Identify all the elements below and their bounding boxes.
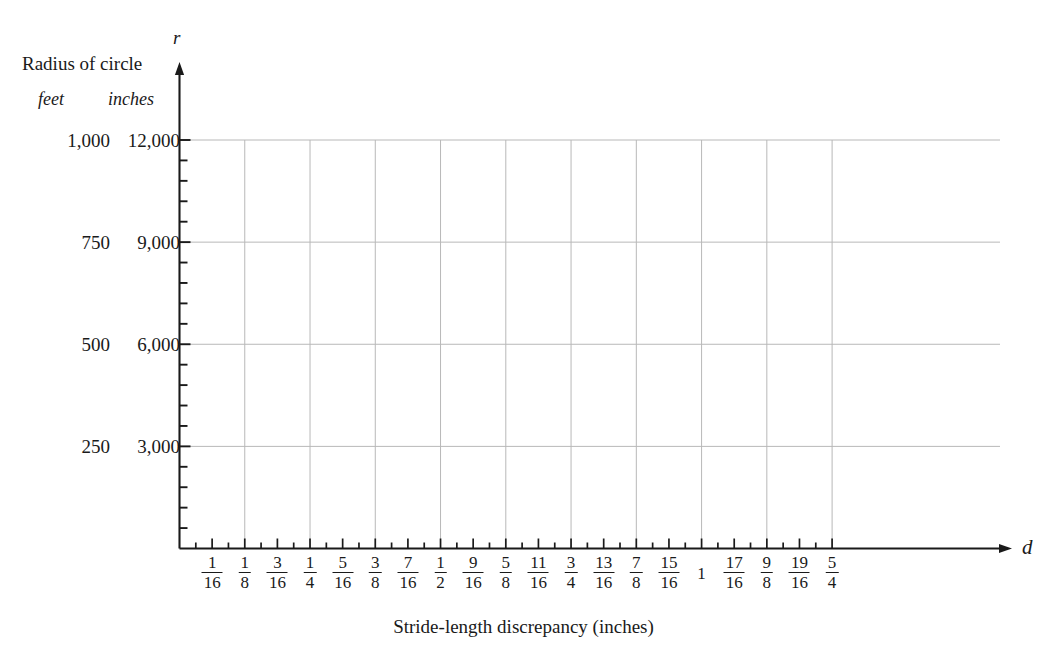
x-axis-tick-label: 916: [463, 554, 484, 591]
fraction-numerator: 13: [593, 554, 614, 573]
x-axis-variable-symbol: d: [1022, 537, 1033, 558]
fraction-numerator: 1: [202, 554, 223, 573]
x-axis-tick-label: 58: [500, 554, 513, 591]
x-axis-tick-label: 54: [826, 554, 839, 591]
y-axis-tick-label-inches: 12,000: [128, 131, 180, 150]
y-axis-unit-feet-header: feet: [38, 90, 64, 108]
x-axis-tick-fraction: 38: [369, 554, 382, 591]
x-axis-tick-fraction: 1516: [658, 554, 679, 591]
y-axis-tick-label-feet: 500: [82, 335, 111, 354]
x-axis-tick-label: 14: [304, 554, 317, 591]
fraction-denominator: 16: [332, 573, 353, 591]
x-axis-tick-fraction: 34: [565, 554, 578, 591]
fraction-denominator: 4: [565, 573, 578, 591]
fraction-denominator: 16: [789, 573, 810, 591]
x-axis-tick-fraction: 18: [239, 554, 252, 591]
fraction-denominator: 4: [304, 573, 317, 591]
x-axis-tick-label: 12: [434, 554, 447, 591]
x-axis-tick-fraction: 54: [826, 554, 839, 591]
chart-page: Radius of circle feet inches r d Stride-…: [0, 0, 1047, 657]
y-axis-variable-symbol: r: [173, 28, 180, 47]
x-axis-arrowhead: [999, 544, 1012, 553]
x-axis-tick-label: 116: [202, 554, 223, 591]
y-axis-tick-label-inches: 6,000: [137, 335, 180, 354]
x-axis-tick-label: 98: [761, 554, 774, 591]
y-axis-unit-inches-header: inches: [108, 90, 154, 108]
fraction-numerator: 3: [267, 554, 288, 573]
fraction-numerator: 3: [565, 554, 578, 573]
fraction-numerator: 15: [658, 554, 679, 573]
y-axis-tick-label-feet: 1,000: [67, 131, 110, 150]
fraction-numerator: 5: [500, 554, 513, 573]
y-axis-tick-label-feet: 250: [82, 437, 111, 456]
fraction-denominator: 16: [528, 573, 549, 591]
x-axis-tick-label: 78: [630, 554, 643, 591]
x-axis-tick-label: 38: [369, 554, 382, 591]
fraction-numerator: 1: [434, 554, 447, 573]
x-axis-title: Stride-length discrepancy (inches): [0, 617, 1047, 636]
y-axis-arrowhead: [175, 62, 184, 75]
x-axis-tick-fraction: 1916: [789, 554, 810, 591]
x-axis-tick-whole-number: 1: [697, 554, 706, 582]
x-axis-tick-label: 1516: [658, 554, 679, 591]
x-axis-tick-fraction: 116: [202, 554, 223, 591]
fraction-denominator: 8: [630, 573, 643, 591]
fraction-numerator: 1: [239, 554, 252, 573]
fraction-denominator: 16: [658, 573, 679, 591]
x-axis-tick-label: 1316: [593, 554, 614, 591]
x-axis-tick-label: 1116: [528, 554, 549, 591]
x-axis-tick-label: 516: [332, 554, 353, 591]
x-axis-tick-fraction: 58: [500, 554, 513, 591]
fraction-denominator: 16: [202, 573, 223, 591]
y-axis-tick-label-feet: 750: [82, 233, 111, 252]
x-axis-tick-fraction: 1116: [528, 554, 549, 591]
fraction-numerator: 5: [826, 554, 839, 573]
x-axis-tick-label: 1: [697, 554, 706, 582]
fraction-denominator: 16: [267, 573, 288, 591]
x-axis-tick-fraction: 916: [463, 554, 484, 591]
fraction-denominator: 2: [434, 573, 447, 591]
x-axis-tick-fraction: 1316: [593, 554, 614, 591]
fraction-denominator: 8: [239, 573, 252, 591]
fraction-denominator: 16: [463, 573, 484, 591]
fraction-denominator: 4: [826, 573, 839, 591]
x-axis-tick-label: 18: [239, 554, 252, 591]
fraction-denominator: 8: [369, 573, 382, 591]
fraction-denominator: 8: [500, 573, 513, 591]
fraction-numerator: 17: [724, 554, 745, 573]
x-axis-tick-label: 716: [397, 554, 418, 591]
fraction-numerator: 7: [397, 554, 418, 573]
x-axis-tick-label: 316: [267, 554, 288, 591]
x-axis-tick-label: 1916: [789, 554, 810, 591]
x-axis-tick-label: 1716: [724, 554, 745, 591]
y-axis-tick-label-inches: 3,000: [137, 437, 180, 456]
y-axis-header-title: Radius of circle: [22, 54, 142, 73]
x-axis-tick-fraction: 98: [761, 554, 774, 591]
x-axis-tick-fraction: 78: [630, 554, 643, 591]
plot-area: [0, 0, 1047, 657]
fraction-numerator: 1: [304, 554, 317, 573]
fraction-numerator: 7: [630, 554, 643, 573]
fraction-numerator: 5: [332, 554, 353, 573]
fraction-numerator: 9: [463, 554, 484, 573]
x-axis-tick-fraction: 316: [267, 554, 288, 591]
fraction-numerator: 11: [528, 554, 549, 573]
fraction-numerator: 9: [761, 554, 774, 573]
x-axis-tick-fraction: 516: [332, 554, 353, 591]
y-axis-tick-label-inches: 9,000: [137, 233, 180, 252]
x-axis-tick-fraction: 716: [397, 554, 418, 591]
fraction-denominator: 16: [397, 573, 418, 591]
fraction-denominator: 16: [593, 573, 614, 591]
x-axis-tick-fraction: 12: [434, 554, 447, 591]
fraction-numerator: 3: [369, 554, 382, 573]
fraction-numerator: 19: [789, 554, 810, 573]
fraction-denominator: 8: [761, 573, 774, 591]
x-axis-tick-fraction: 1716: [724, 554, 745, 591]
x-axis-tick-fraction: 14: [304, 554, 317, 591]
fraction-denominator: 16: [724, 573, 745, 591]
x-axis-tick-label: 34: [565, 554, 578, 591]
